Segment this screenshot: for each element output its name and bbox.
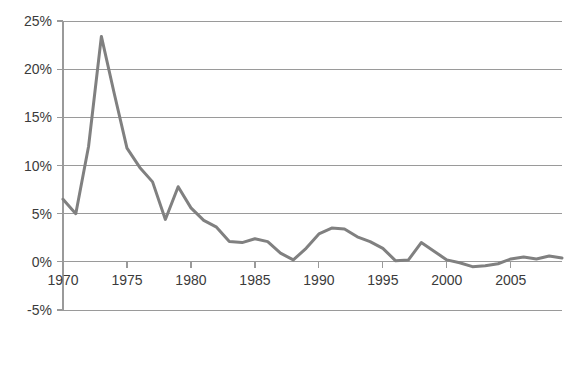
- x-tick-label: 1985: [239, 272, 270, 288]
- x-tick-label: 1980: [175, 272, 206, 288]
- x-tick-label: 1990: [303, 272, 334, 288]
- x-tick-label: 1970: [47, 272, 78, 288]
- x-axis: 19701975198019851990199520002005: [47, 262, 526, 288]
- y-tick-label: 10%: [24, 158, 52, 174]
- y-tick-label: 25%: [24, 13, 52, 29]
- line-chart: 25%20%15%10%5%0%-5% 19701975198019851990…: [0, 0, 584, 365]
- chart-container: 25%20%15%10%5%0%-5% 19701975198019851990…: [0, 0, 584, 365]
- series-line-1: [63, 36, 562, 266]
- y-tick-label: -5%: [27, 302, 52, 318]
- y-tick-label: 20%: [24, 61, 52, 77]
- x-tick-label: 2000: [431, 272, 462, 288]
- y-tick-label: 0%: [32, 254, 52, 270]
- y-tick-label: 5%: [32, 206, 52, 222]
- data-series: [63, 36, 562, 266]
- x-tick-label: 1975: [111, 272, 142, 288]
- x-tick-label: 2005: [495, 272, 526, 288]
- y-tick-label: 15%: [24, 109, 52, 125]
- x-tick-label: 1995: [367, 272, 398, 288]
